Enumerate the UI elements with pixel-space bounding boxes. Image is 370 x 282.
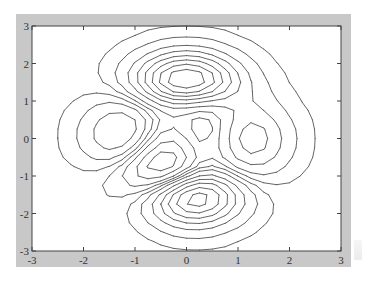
y-tick-label: 2 bbox=[24, 58, 30, 70]
y-tick-label: 0 bbox=[24, 133, 30, 145]
contour-plot: -3-2-10123-3-2-10123 bbox=[0, 0, 370, 282]
y-tick-label: 1 bbox=[24, 95, 30, 107]
x-tick-label: 3 bbox=[338, 254, 344, 266]
contour-figure: -3-2-10123-3-2-10123 bbox=[0, 0, 370, 282]
edge-artifact bbox=[354, 240, 362, 260]
x-tick-label: 2 bbox=[287, 254, 293, 266]
y-tick-label: -3 bbox=[20, 245, 30, 257]
y-tick-label: 3 bbox=[24, 20, 30, 32]
x-tick-label: 0 bbox=[184, 254, 190, 266]
x-tick-label: 1 bbox=[235, 254, 241, 266]
x-tick-label: -2 bbox=[79, 254, 88, 266]
y-tick-label: -2 bbox=[20, 208, 29, 220]
x-tick-label: -1 bbox=[130, 254, 139, 266]
y-tick-label: -1 bbox=[20, 170, 29, 182]
